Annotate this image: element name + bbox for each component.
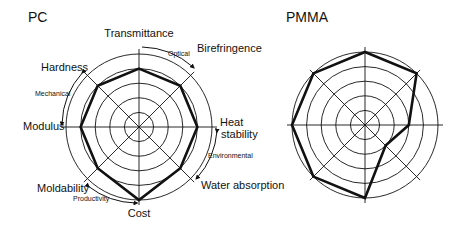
mechanical-arc (62, 72, 83, 124)
axis-label-heat: Heat (220, 116, 243, 128)
group-label-mechanical: Mechanical (35, 90, 71, 97)
axis-label-water-absorption: Water absorption (201, 179, 284, 191)
axis-label-birefringence: Birefringence (197, 42, 262, 54)
axis-label-hardness: Hardness (41, 61, 89, 73)
axis-label-modulus: Modulus (23, 120, 65, 132)
axis-label-stability: stability (221, 128, 258, 140)
pmma-grid (287, 47, 443, 203)
axis-label-moldability: Moldability (37, 182, 89, 194)
pmma-radar-chart (287, 47, 443, 203)
axis-label-cost: Cost (128, 207, 151, 219)
axis-label-transmittance: Transmittance (104, 27, 173, 39)
group-label-environmental: Environmental (208, 152, 253, 159)
pc-title: PC (28, 9, 47, 25)
group-label-optical: Optical (168, 50, 190, 58)
pmma-title: PMMA (286, 9, 329, 25)
group-label-productivity: Productivity (73, 195, 110, 203)
radar-charts: PC Transmittance Birefringence Heat stab… (0, 0, 461, 229)
